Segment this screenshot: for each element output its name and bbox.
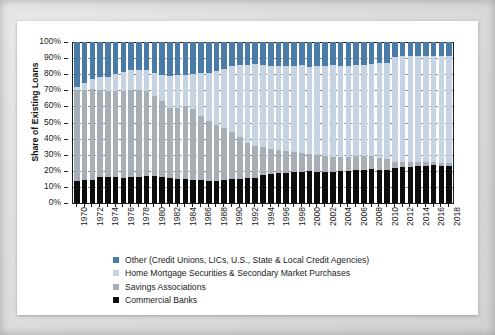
- x-tick-mark: [153, 203, 154, 207]
- bar-segment: [214, 181, 220, 203]
- bar-segment: [252, 42, 258, 64]
- bar-segment: [105, 42, 111, 77]
- y-axis-ticks: 100%90%80%70%60%50%40%30%20%10%0%: [25, 21, 61, 315]
- bar-column: [97, 42, 103, 203]
- bar-segment: [276, 173, 282, 203]
- bar-segment: [384, 170, 390, 203]
- bar-segment: [369, 156, 375, 169]
- x-tick-mark: [309, 203, 310, 207]
- bar-segment: [322, 66, 328, 156]
- bar-segment: [136, 90, 142, 177]
- bar-column: [353, 42, 359, 203]
- x-tick-mark: [231, 203, 232, 207]
- y-tick-mark: [64, 74, 68, 75]
- bar-segment: [361, 156, 367, 170]
- legend-item[interactable]: Savings Associations: [113, 280, 473, 294]
- x-tick-label: 1994: [266, 207, 276, 251]
- bar-segment: [392, 162, 398, 168]
- y-tick-label: 80%: [25, 68, 61, 78]
- bar-column: [307, 42, 313, 203]
- bar-column: [136, 42, 142, 203]
- legend-item[interactable]: Home Mortgage Securities & Secondary Mar…: [113, 267, 473, 281]
- x-tick-label: 1978: [141, 207, 151, 251]
- bar-segment: [136, 70, 142, 90]
- x-tick-mark: [138, 203, 139, 207]
- bar-column: [198, 42, 204, 203]
- bar-segment: [431, 56, 437, 162]
- bar-segment: [175, 108, 181, 180]
- bar-column: [252, 42, 258, 203]
- chart-legend: Other (Credit Unions, LICs, U.S., State …: [113, 253, 473, 307]
- legend-item[interactable]: Other (Credit Unions, LICs, U.S., State …: [113, 253, 473, 267]
- bar-column: [221, 42, 227, 203]
- bar-segment: [346, 66, 352, 157]
- bar-segment: [167, 76, 173, 107]
- bar-segment: [167, 108, 173, 179]
- bar-segment: [400, 167, 406, 203]
- bar-segment: [408, 56, 414, 162]
- bar-segment: [206, 73, 212, 121]
- bar-segment: [400, 162, 406, 167]
- legend-label: Commercial Banks: [125, 295, 197, 305]
- bar-column: [330, 42, 336, 203]
- bar-segment: [121, 72, 127, 91]
- bar-segment: [159, 177, 165, 203]
- y-tick-mark: [64, 203, 68, 204]
- bar-segment: [152, 176, 158, 203]
- bar-segment: [144, 70, 150, 91]
- bar-segment: [431, 165, 437, 203]
- bar-segment: [283, 66, 289, 151]
- legend-label: Other (Credit Unions, LICs, U.S., State …: [125, 255, 369, 265]
- bar-segment: [260, 147, 266, 174]
- y-tick-label: 60%: [25, 100, 61, 110]
- bar-segment: [214, 125, 220, 181]
- bar-segment: [415, 42, 421, 56]
- bar-segment: [159, 75, 165, 101]
- bar-segment: [322, 172, 328, 203]
- bar-column: [128, 42, 134, 203]
- bar-segment: [307, 42, 313, 67]
- bar-column: [415, 42, 421, 203]
- bar-segment: [105, 77, 111, 91]
- chart-panel: Share of Existing Loans 100%90%80%70%60%…: [17, 21, 478, 315]
- bar-segment: [369, 42, 375, 64]
- bar-segment: [144, 176, 150, 203]
- bar-column: [439, 42, 445, 203]
- legend-item[interactable]: Commercial Banks: [113, 294, 473, 308]
- bar-segment: [152, 96, 158, 177]
- bar-segment: [152, 73, 158, 96]
- bar-column: [431, 42, 437, 203]
- x-tick-mark: [448, 203, 449, 207]
- bar-segment: [276, 150, 282, 173]
- bar-segment: [221, 180, 227, 203]
- bar-segment: [190, 42, 196, 74]
- x-tick-label: 1974: [110, 207, 120, 251]
- bar-segment: [423, 162, 429, 166]
- bar-segment: [113, 177, 119, 203]
- bar-segment: [152, 42, 158, 73]
- bar-segment: [159, 42, 165, 75]
- bar-segment: [229, 132, 235, 179]
- bar-segment: [221, 42, 227, 69]
- x-tick-mark: [293, 203, 294, 207]
- bar-segment: [74, 87, 80, 90]
- bar-segment: [206, 121, 212, 181]
- bar-segment: [384, 42, 390, 63]
- x-tick-label: 1990: [234, 207, 244, 251]
- bar-segment: [408, 42, 414, 56]
- bar-segment: [105, 91, 111, 177]
- bar-column: [214, 42, 220, 203]
- x-tick-label: 1972: [95, 207, 105, 251]
- bar-segment: [307, 154, 313, 172]
- bar-segment: [206, 42, 212, 73]
- y-tick-label: 100%: [25, 36, 61, 46]
- bar-segment: [252, 178, 258, 203]
- x-tick-mark: [324, 203, 325, 207]
- bar-segment: [361, 42, 367, 65]
- x-tick-mark: [355, 203, 356, 207]
- bar-column: [299, 42, 305, 203]
- bar-segment: [74, 90, 80, 181]
- bar-segment: [190, 109, 196, 180]
- bar-segment: [229, 66, 235, 132]
- bar-segment: [206, 181, 212, 203]
